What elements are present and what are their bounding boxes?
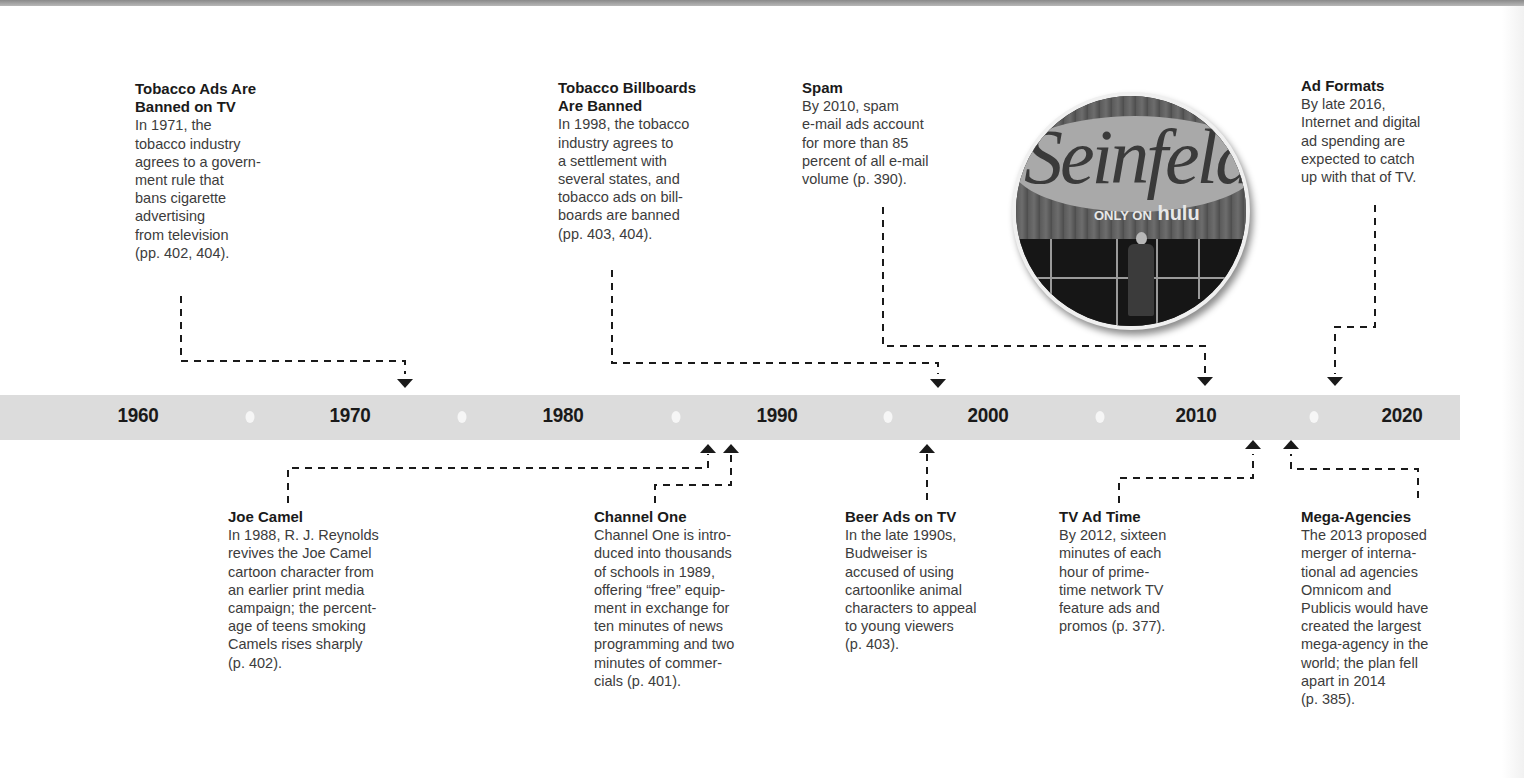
- arrow-up-icon: [1245, 440, 1261, 449]
- arrow-down-icon: [1327, 377, 1343, 386]
- arrow-up-icon: [919, 444, 935, 453]
- connector-joe-camel: [288, 454, 708, 503]
- event-title: Beer Ads on TV: [845, 508, 1025, 526]
- connector-tv-ad-time: [1119, 454, 1253, 503]
- event-title: Channel One: [594, 508, 794, 526]
- arrow-down-icon: [1197, 377, 1213, 386]
- connector-mega-agencies: [1291, 454, 1418, 498]
- event-description: In 1988, R. J. Reynolds revives the Joe …: [228, 526, 428, 672]
- arrow-down-icon: [930, 379, 946, 388]
- connector-ad-formats: [1335, 205, 1375, 374]
- event-title: TV Ad Time: [1059, 508, 1219, 526]
- arrow-up-icon: [1283, 440, 1299, 449]
- connector-tobacco-tv: [181, 296, 405, 374]
- arrow-up-icon: [700, 444, 716, 453]
- connector-billboards: [612, 270, 938, 374]
- event-beer-ads: Beer Ads on TV In the late 1990s, Budwei…: [845, 508, 1025, 654]
- event-title: Mega-Agencies: [1301, 508, 1476, 526]
- event-description: By 2012, sixteen minutes of each hour of…: [1059, 526, 1219, 635]
- arrow-up-icon: [723, 444, 739, 453]
- event-title: Joe Camel: [228, 508, 428, 526]
- event-description: Channel One is intro- duced into thousan…: [594, 526, 794, 690]
- event-channel-one: Channel One Channel One is intro- duced …: [594, 508, 794, 690]
- event-tv-ad-time: TV Ad Time By 2012, sixteen minutes of e…: [1059, 508, 1219, 635]
- event-joe-camel: Joe Camel In 1988, R. J. Reynolds revive…: [228, 508, 428, 672]
- connector-spam: [883, 207, 1205, 374]
- event-description: The 2013 proposed merger of interna- tio…: [1301, 526, 1476, 708]
- event-mega-agencies: Mega-Agencies The 2013 proposed merger o…: [1301, 508, 1476, 708]
- event-description: In the late 1990s, Budweiser is accused …: [845, 526, 1025, 653]
- arrow-down-icon: [397, 379, 413, 388]
- connector-channel-one: [655, 454, 731, 503]
